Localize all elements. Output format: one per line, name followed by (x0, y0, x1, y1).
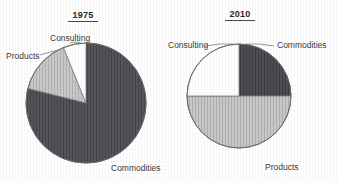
pie-chart-2010 (0, 0, 337, 182)
slice-2010-products (187, 96, 291, 148)
figure-canvas: 1975 (0, 0, 337, 182)
label-2010-consulting: Consulting (168, 40, 208, 50)
slice-2010-consulting (187, 44, 239, 96)
slice-2010-commodities (239, 44, 291, 96)
label-2010-commodities: Commodities (277, 40, 327, 50)
label-2010-products: Products (265, 162, 299, 172)
